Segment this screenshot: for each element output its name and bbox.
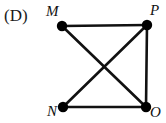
- edge-M-P: [62, 25, 147, 26]
- edge-P-O: [146, 25, 147, 107]
- vertex-label-N: N: [47, 104, 57, 119]
- vertex-label-P: P: [150, 3, 159, 18]
- graph-edges: [62, 25, 147, 107]
- vertex-label-O: O: [150, 105, 161, 120]
- vertex-label-M: M: [46, 4, 59, 19]
- vertex-N: [58, 102, 68, 112]
- vertex-P: [142, 20, 152, 30]
- graph-diagram: [0, 0, 166, 123]
- vertex-M: [57, 21, 67, 31]
- figure-canvas: (D) M P N O: [0, 0, 166, 123]
